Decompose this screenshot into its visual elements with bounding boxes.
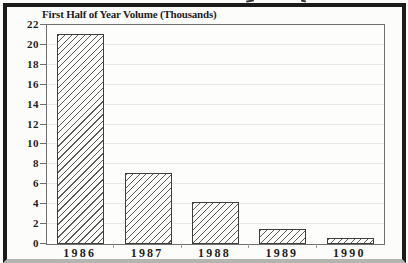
x-tick-mark — [248, 244, 249, 248]
y-tick-mark — [40, 223, 46, 224]
y-tick-label: 4 — [0, 197, 39, 209]
y-tick-mark — [40, 64, 46, 65]
y-tick-mark — [40, 163, 46, 164]
y-tick-mark — [40, 143, 46, 144]
x-tick-mark — [316, 244, 317, 248]
x-tick-mark — [113, 244, 114, 248]
x-axis-ticks — [46, 244, 383, 249]
bar-1989 — [259, 229, 306, 244]
chart-title: First Half of Year Volume (Thousands) — [42, 8, 216, 20]
y-tick-label: 0 — [0, 237, 39, 249]
y-tick-label: 8 — [0, 157, 39, 169]
y-tick-label: 22 — [0, 18, 39, 30]
y-axis-ticks — [40, 24, 46, 243]
bar-1987 — [125, 173, 172, 244]
y-tick-mark — [40, 24, 46, 25]
bar-1986 — [57, 34, 104, 244]
y-tick-label: 6 — [0, 177, 39, 189]
y-tick-label: 12 — [0, 118, 39, 130]
plot-area — [46, 24, 385, 245]
y-tick-mark — [40, 84, 46, 85]
y-tick-label: 18 — [0, 58, 39, 70]
y-tick-mark — [40, 183, 46, 184]
y-tick-label: 16 — [0, 78, 39, 90]
scanned-chart-page: First Half of Year Volume (Thousands) 02… — [0, 0, 408, 263]
y-axis-labels: 0246810121416182022 — [0, 24, 39, 243]
y-tick-label: 20 — [0, 38, 39, 50]
y-tick-mark — [40, 104, 46, 105]
y-tick-label: 2 — [0, 217, 39, 229]
y-tick-mark — [40, 203, 46, 204]
y-tick-mark — [40, 44, 46, 45]
y-tick-mark — [40, 124, 46, 125]
x-tick-mark — [181, 244, 182, 248]
bar-1988 — [192, 202, 239, 244]
y-tick-label: 14 — [0, 98, 39, 110]
y-tick-label: 10 — [0, 137, 39, 149]
